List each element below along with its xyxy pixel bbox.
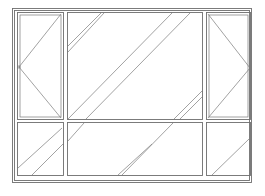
panel-top-right-casement (207, 13, 251, 120)
outer-frame (13, 9, 252, 183)
panel-top-center-fixed (68, 13, 203, 120)
panel-bottom-left-fixed (18, 123, 64, 176)
panel-bottom-center-fixed (68, 123, 203, 176)
panel-top-left-casement (18, 13, 64, 120)
window-elevation-diagram (0, 0, 265, 196)
panel-bottom-right-fixed (207, 123, 251, 176)
